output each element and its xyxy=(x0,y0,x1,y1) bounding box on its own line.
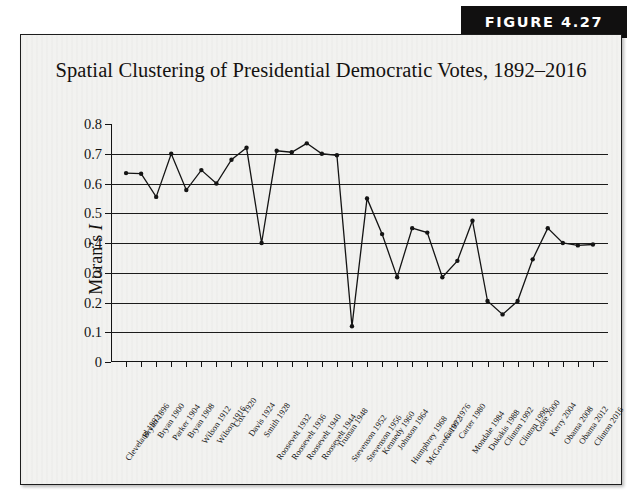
y-tick-label: 0.8 xyxy=(84,116,102,133)
data-point xyxy=(229,158,233,162)
data-point xyxy=(485,299,489,303)
data-point xyxy=(425,230,429,234)
data-point xyxy=(259,241,263,245)
plot-area: 00.10.20.30.40.50.60.70.8 xyxy=(111,124,608,362)
data-point xyxy=(546,226,550,230)
data-point xyxy=(199,168,203,172)
y-tick-label: 0.7 xyxy=(84,145,102,162)
x-axis-labels: Cleveland 1892Bryan 1896Bryan 1900Parker… xyxy=(111,364,608,464)
data-point xyxy=(320,152,324,156)
data-point xyxy=(350,324,354,328)
y-tick-label: 0.3 xyxy=(84,264,102,281)
data-point xyxy=(395,275,399,279)
series-polyline xyxy=(126,143,593,326)
data-point xyxy=(335,153,339,157)
y-tick-label: 0.1 xyxy=(84,324,102,341)
data-point xyxy=(139,171,143,175)
y-tick xyxy=(105,362,111,363)
y-tick-label: 0.6 xyxy=(84,175,102,192)
data-point xyxy=(305,141,309,145)
y-tick-label: 0.4 xyxy=(84,235,102,252)
data-point xyxy=(274,149,278,153)
data-point xyxy=(124,171,128,175)
data-point xyxy=(530,257,534,261)
data-point xyxy=(184,188,188,192)
data-point xyxy=(380,232,384,236)
data-point xyxy=(470,218,474,222)
data-point xyxy=(591,242,595,246)
data-point xyxy=(561,241,565,245)
data-point xyxy=(455,259,459,263)
data-point xyxy=(154,195,158,199)
data-point xyxy=(576,243,580,247)
figure-number-label: FIGURE 4.27 xyxy=(485,14,603,30)
data-point xyxy=(365,196,369,200)
data-point xyxy=(214,181,218,185)
data-point xyxy=(244,146,248,150)
y-tick-label: 0.2 xyxy=(84,294,102,311)
data-point xyxy=(169,152,173,156)
data-point xyxy=(500,312,504,316)
data-point xyxy=(515,299,519,303)
data-point xyxy=(440,275,444,279)
series-line xyxy=(111,124,608,362)
figure-card: Spatial Clustering of Presidential Democ… xyxy=(20,34,622,485)
y-tick-label: 0.5 xyxy=(84,205,102,222)
data-point xyxy=(410,226,414,230)
data-point xyxy=(290,150,294,154)
y-tick-label: 0 xyxy=(95,354,102,371)
